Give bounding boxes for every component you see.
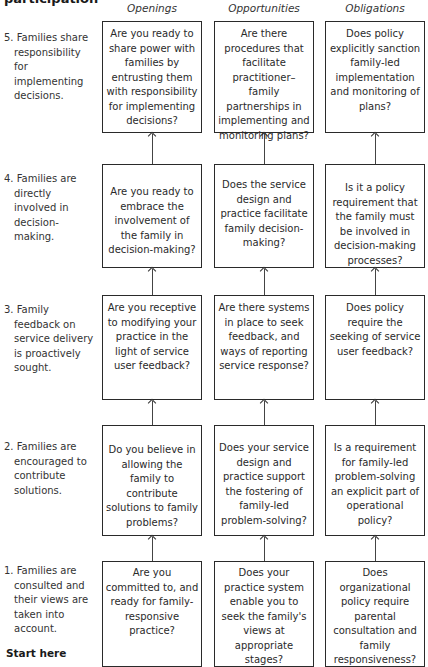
diagram-title: participation xyxy=(4,0,98,6)
arrow-up-icon xyxy=(152,134,153,164)
cell-openings-level-1: Are you committed to, and ready for fami… xyxy=(102,561,202,667)
cell-openings-level-2: Do you believe in allowing the family to… xyxy=(102,425,202,536)
level-number: 3. xyxy=(4,304,14,315)
arrow-up-icon xyxy=(264,134,265,164)
cell-openings-level-5: Are you ready to share power with famili… xyxy=(102,21,202,133)
level-text: Families share responsibility for implem… xyxy=(14,32,88,101)
level-1-label: 1. Families are consulted and their view… xyxy=(4,564,96,637)
arrow-up-icon xyxy=(152,537,153,561)
cell-obligations-level-2: Is a requirement for family-led problem-… xyxy=(325,425,425,536)
level-3-label: 3. Family feedback on service delivery i… xyxy=(4,303,96,376)
cell-opportunities-level-1: Does your practice system enable you to … xyxy=(214,561,314,667)
arrow-up-icon xyxy=(152,269,153,295)
start-here-label: Start here xyxy=(6,647,66,659)
column-header-obligations: Obligations xyxy=(325,2,425,14)
arrow-up-icon xyxy=(375,269,376,295)
level-text: Families are directly involved in decisi… xyxy=(14,173,77,242)
arrow-up-icon xyxy=(375,134,376,164)
column-header-openings: Openings xyxy=(102,2,202,14)
cell-opportunities-level-5: Are there procedures that facilitate pra… xyxy=(214,21,314,133)
cell-openings-level-3: Are you receptive to modifying your prac… xyxy=(102,295,202,400)
level-number: 4. xyxy=(4,173,14,184)
level-number: 5. xyxy=(4,32,14,43)
cell-obligations-level-3: Does policy require the seeking of servi… xyxy=(325,295,425,400)
arrow-up-icon xyxy=(264,537,265,561)
level-text: Family feedback on service delivery is p… xyxy=(14,304,93,373)
level-text: Families are encouraged to contribute so… xyxy=(14,441,87,496)
level-number: 2. xyxy=(4,441,14,452)
level-4-label: 4. Families are directly involved in dec… xyxy=(4,172,96,245)
level-5-label: 5. Families share responsibility for imp… xyxy=(4,31,96,104)
cell-opportunities-level-2: Does your service design and practice su… xyxy=(214,425,314,536)
cell-opportunities-level-4: Does the service design and practice fac… xyxy=(214,164,314,268)
level-number: 1. xyxy=(4,565,14,576)
cell-obligations-level-1: Does organizational policy require paren… xyxy=(325,561,425,667)
cell-obligations-level-4: Is it a policy requirement that the fami… xyxy=(325,164,425,268)
level-text: Families are consulted and their views a… xyxy=(14,565,88,634)
cell-obligations-level-5: Does policy explicitly sanction family-l… xyxy=(325,21,425,133)
cell-opportunities-level-3: Are there systems in place to seek feedb… xyxy=(214,295,314,400)
arrow-up-icon xyxy=(264,401,265,425)
arrow-up-icon xyxy=(375,401,376,425)
arrow-up-icon xyxy=(375,537,376,561)
column-header-opportunities: Opportunities xyxy=(214,2,314,14)
arrow-up-icon xyxy=(264,269,265,295)
level-2-label: 2. Families are encouraged to contribute… xyxy=(4,440,96,498)
cell-openings-level-4: Are you ready to embrace the involvement… xyxy=(102,164,202,268)
arrow-up-icon xyxy=(152,401,153,425)
